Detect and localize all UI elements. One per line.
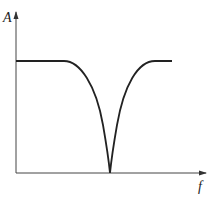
amplitude-curve [16, 61, 172, 173]
x-axis-label: f [198, 179, 204, 194]
notch-filter-chart: A f [0, 0, 219, 199]
y-axis-label: A [2, 10, 12, 25]
